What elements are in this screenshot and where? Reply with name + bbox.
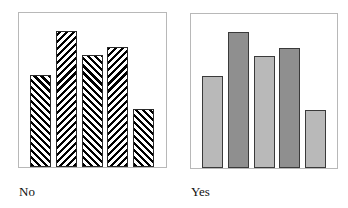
bar-no-2 [56,31,77,167]
chart-panel-yes [190,13,338,169]
caption-no: No [19,184,35,200]
bar-yes-2 [228,32,249,168]
bar-yes-5 [305,110,326,168]
bar-yes-4 [279,48,300,168]
bar-no-3 [82,55,103,167]
bar-no-1 [30,75,51,167]
bar-yes-1 [202,76,223,168]
chart-panel-no [18,12,167,168]
bar-yes-3 [254,56,275,168]
bar-no-4 [107,47,128,167]
caption-yes: Yes [191,184,210,200]
bar-no-5 [133,109,154,167]
